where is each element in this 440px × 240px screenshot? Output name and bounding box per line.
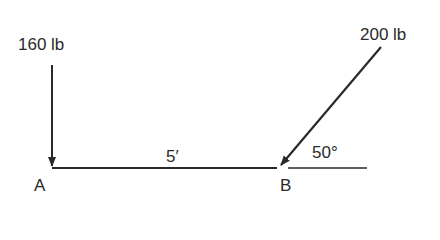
force-a-label: 160 lb <box>18 36 64 53</box>
beam-length-label: 5′ <box>166 148 179 165</box>
force-b-label: 200 lb <box>360 26 406 43</box>
point-a-label: A <box>34 177 45 194</box>
point-b-label: B <box>280 177 291 194</box>
angle-label: 50° <box>312 144 338 161</box>
